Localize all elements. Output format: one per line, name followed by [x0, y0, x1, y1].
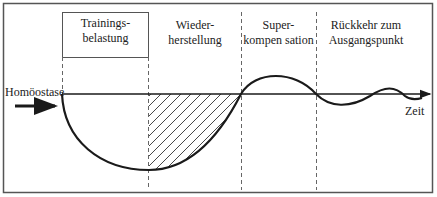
phase-label-line: Super- — [241, 18, 316, 33]
phase-label-line: herstellung — [149, 33, 241, 48]
phase-label-line: kompen sation — [241, 33, 316, 48]
phase-label-supercompensation: Super- kompen sation — [241, 18, 316, 48]
phase-label-line: Rückkehr zum — [316, 18, 416, 33]
hatched-recovery-area — [70, 85, 290, 175]
time-axis-label: Zeit — [405, 104, 424, 119]
supercompensation-diagram: Trainings- belastung Wieder- herstellung… — [0, 0, 437, 197]
phase-label-line: Trainings- — [62, 16, 149, 31]
phase-label-recovery: Wieder- herstellung — [149, 18, 241, 48]
phase-label-training: Trainings- belastung — [62, 16, 149, 46]
phase-label-return: Rückkehr zum Ausgangspunkt — [316, 18, 416, 48]
phase-label-line: Wieder- — [149, 18, 241, 33]
homeostasis-label: Homöostase — [5, 85, 64, 100]
phase-label-line: Ausgangspunkt — [316, 33, 416, 48]
phase-label-line: belastung — [62, 31, 149, 46]
